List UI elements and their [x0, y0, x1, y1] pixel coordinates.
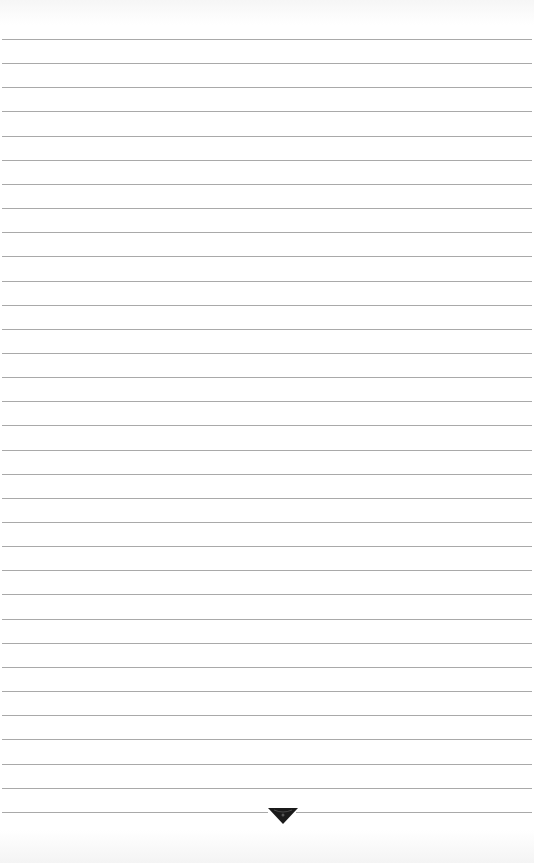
lined-paper-page	[0, 0, 534, 863]
ruled-line	[2, 329, 532, 330]
ruled-line	[2, 546, 532, 547]
ruled-line	[296, 812, 532, 813]
ruled-line	[2, 667, 532, 668]
ruled-line	[2, 305, 532, 306]
ruled-line	[2, 39, 532, 40]
ruled-line	[2, 401, 532, 402]
ruled-line	[2, 570, 532, 571]
ruled-line	[2, 812, 268, 813]
ruled-line	[2, 643, 532, 644]
ruled-line	[2, 522, 532, 523]
downward-triangle-ornament-icon	[268, 807, 298, 825]
ruled-line	[2, 232, 532, 233]
ruled-line	[2, 594, 532, 595]
ruled-line	[2, 281, 532, 282]
ruled-line	[2, 691, 532, 692]
ruled-line	[2, 136, 532, 137]
ruled-line	[2, 87, 532, 88]
ruled-line	[2, 450, 532, 451]
ruled-line	[2, 184, 532, 185]
ruled-line	[2, 715, 532, 716]
ruled-line	[2, 425, 532, 426]
ruled-line	[2, 353, 532, 354]
ruled-line	[2, 111, 532, 112]
ruled-line	[2, 377, 532, 378]
ruled-line	[2, 208, 532, 209]
ruled-line	[2, 474, 532, 475]
ruled-line	[2, 498, 532, 499]
ruled-line	[2, 256, 532, 257]
ruled-line	[2, 619, 532, 620]
ruled-line	[2, 739, 532, 740]
ruled-line	[2, 764, 532, 765]
ruled-line	[2, 63, 532, 64]
ruled-line	[2, 160, 532, 161]
ruled-line	[2, 788, 532, 789]
